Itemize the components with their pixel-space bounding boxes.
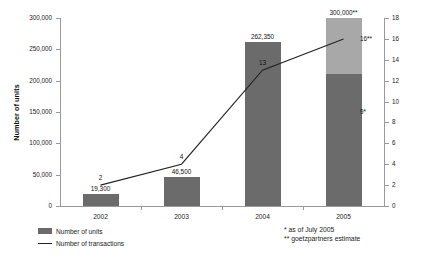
line-series <box>0 0 444 258</box>
chart-container: Number of units Number of transactions 0… <box>0 0 444 258</box>
transactions-actual-label: 9* <box>360 108 366 115</box>
line-value-label: 13 <box>243 59 283 66</box>
footnote-asterisk: * as of July 2005 <box>284 226 360 233</box>
footnote-double-asterisk: ** goetzpartners estimate <box>284 235 360 242</box>
legend-item-units: Number of units <box>38 226 124 236</box>
transactions-estimate-label: 16** <box>360 35 372 42</box>
chart-footnotes: * as of July 2005 ** goetzpartners estim… <box>284 226 360 244</box>
legend-label-transactions: Number of transactions <box>56 240 124 247</box>
line-value-label: 4 <box>162 153 202 160</box>
legend-item-transactions: Number of transactions <box>38 238 124 248</box>
transactions-line-icon <box>38 240 52 246</box>
line-value-label: 2 <box>81 174 121 181</box>
legend-label-units: Number of units <box>56 228 103 235</box>
units-swatch-icon <box>38 228 52 234</box>
chart-legend: Number of units Number of transactions <box>38 226 124 250</box>
